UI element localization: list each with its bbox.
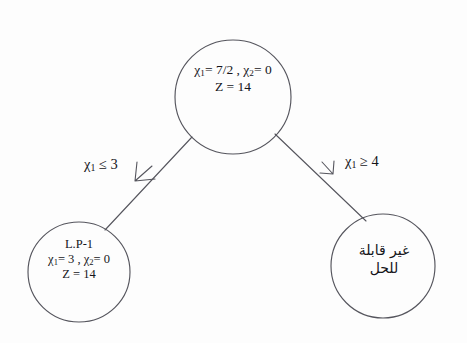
right-child-node-circle	[331, 214, 435, 318]
left-child-node-circle	[28, 222, 130, 322]
edge-root-to-right-line	[275, 134, 366, 221]
tree-graphic	[0, 0, 467, 343]
edge-root-to-left-label-rest: ≤ 3	[95, 156, 117, 172]
edge-root-to-left-line	[105, 137, 192, 230]
diagram-canvas: χ1= 7/2 , χ2= 0 Z = 14 L.P-1 χ1= 3 , χ2=…	[0, 0, 467, 343]
edge-root-to-right-label: χ1 ≥ 4	[345, 153, 379, 170]
edge-root-to-right-arrowhead	[320, 161, 334, 174]
edge-root-to-left-arrowhead	[135, 162, 155, 181]
edge-root-to-left-label: χ1 ≤ 3	[84, 156, 118, 173]
edge-root-to-right-label-rest: ≥ 4	[356, 153, 378, 169]
